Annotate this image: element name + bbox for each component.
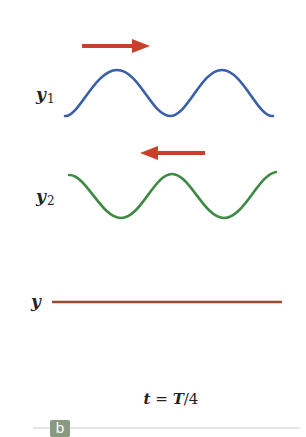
label-y1: y1 <box>36 86 55 105</box>
time-caption: t = T/4 <box>0 390 306 408</box>
wave-y1 <box>65 70 273 116</box>
label-y-sum: y <box>31 293 41 310</box>
arrow-left-icon <box>140 146 205 160</box>
label-y2: y2 <box>36 188 55 207</box>
panel-label-badge: b <box>50 420 70 437</box>
arrow-right-icon <box>82 39 150 53</box>
diagram-canvas <box>0 0 306 437</box>
wave-y2 <box>69 172 276 218</box>
